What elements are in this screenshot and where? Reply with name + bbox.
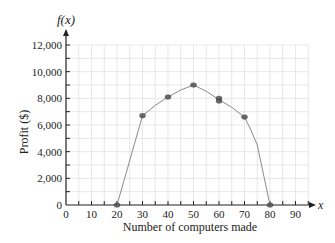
data-point	[165, 95, 171, 100]
profit-chart: 0102030405060708090 02,0004,0006,0008,00…	[0, 0, 335, 243]
data-point	[114, 203, 120, 208]
y-tick-label: 8,000	[37, 92, 62, 104]
x-axis-label: Number of computers made	[123, 220, 257, 234]
x-tick-label: 60	[214, 208, 226, 220]
x-tick-label: 30	[137, 208, 149, 220]
data-point	[140, 113, 146, 118]
x-tick-label: 10	[86, 208, 98, 220]
data-point	[216, 99, 222, 104]
y-tick-label: 0	[57, 199, 63, 211]
data-point	[191, 83, 197, 88]
y-tick-label: 12,000	[32, 39, 63, 51]
y-tick-label: 6,000	[37, 119, 62, 131]
x-tick-label: 80	[265, 208, 277, 220]
y-axis-ticks: 02,0004,0006,0008,00010,00012,000	[32, 39, 70, 211]
x-tick-label: 20	[112, 208, 124, 220]
x-axis-name: x	[317, 198, 324, 212]
axes	[63, 29, 316, 208]
grid-lines	[66, 45, 308, 205]
y-tick-label: 4,000	[37, 146, 62, 158]
x-tick-label: 70	[239, 208, 251, 220]
data-point	[242, 115, 248, 120]
x-tick-label: 0	[63, 208, 69, 220]
y-axis-name: f(x)	[57, 12, 75, 27]
y-tick-label: 10,000	[32, 66, 63, 78]
y-tick-label: 2,000	[37, 172, 62, 184]
y-axis-label: Profit ($)	[17, 110, 31, 154]
x-tick-label: 90	[290, 208, 302, 220]
data-point	[267, 203, 273, 208]
x-tick-label: 50	[188, 208, 200, 220]
x-tick-label: 40	[163, 208, 175, 220]
